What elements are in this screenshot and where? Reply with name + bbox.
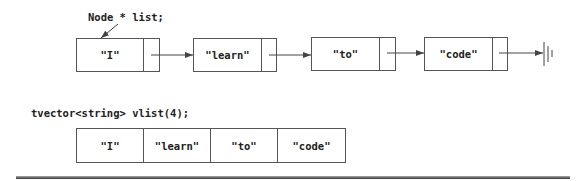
vector-declaration: tvector<string> vlist(4); <box>31 107 189 119</box>
vector-array: "I" "learn" "to" "code" <box>76 128 346 163</box>
bottom-divider <box>16 176 570 179</box>
vector-cell: "I" <box>77 129 144 162</box>
vector-cell: "to" <box>211 129 278 162</box>
next-arrow <box>151 53 543 55</box>
vector-cell: "learn" <box>144 129 211 162</box>
vector-cell: "code" <box>278 129 345 162</box>
null-ground-icon <box>544 42 552 66</box>
head-pointer-arrow <box>101 24 118 38</box>
